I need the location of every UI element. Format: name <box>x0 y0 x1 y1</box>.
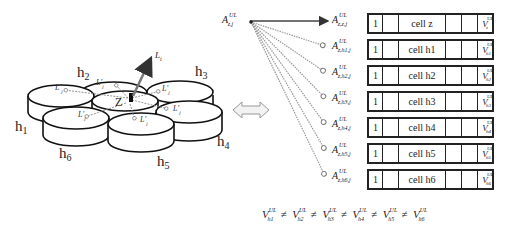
label-link-h4: L'j <box>173 104 181 115</box>
empty-cell <box>446 41 462 58</box>
table-row-cell-h6: 1 cell h6 VULh6 <box>367 169 494 190</box>
table-row-cell-h3: 1 cell h3 VULh3 <box>367 91 494 112</box>
empty-cell <box>462 145 478 162</box>
flag-cell: 1 <box>369 93 383 110</box>
empty-cell <box>383 41 399 58</box>
v-value-cell: VULh3 <box>478 93 492 110</box>
empty-cell <box>446 171 462 188</box>
v-value-cell: VULh2 <box>478 67 492 84</box>
empty-cell <box>462 67 478 84</box>
source-access-label: AULz,j <box>222 14 241 25</box>
empty-cell <box>462 41 478 58</box>
cell-name: cell h1 <box>399 41 446 58</box>
flag-cell: 1 <box>369 145 383 162</box>
mapping-lines <box>249 20 328 176</box>
cell-name: cell h2 <box>399 67 446 84</box>
cell-name: cell h3 <box>399 93 446 110</box>
v-value-cell: VULh6 <box>478 171 492 188</box>
formula-term: VULh2 <box>292 208 312 220</box>
empty-cell <box>446 93 462 110</box>
table-row-cell-h1: 1 cell h1 VULh1 <box>367 39 494 60</box>
empty-cell <box>383 145 399 162</box>
label-link-h1: L'j <box>55 83 63 94</box>
inequality-formula: VULh1≠ VULh2≠ VULh3≠ VULh4≠ VULh5≠ VULh6 <box>262 208 435 220</box>
cell-name: cell h4 <box>399 119 446 136</box>
flag-cell: 1 <box>369 119 383 136</box>
target-label-h1: AULz,h1,j <box>332 40 359 51</box>
empty-cell <box>446 119 462 136</box>
formula-term: VULh6 <box>413 208 433 220</box>
flag-cell: 1 <box>369 15 383 32</box>
label-h2: h2 <box>77 64 90 82</box>
formula-term: VULh4 <box>353 208 373 220</box>
empty-cell <box>383 67 399 84</box>
label-h5: h5 <box>157 153 170 171</box>
target-label-h3: AULz,h3,j <box>332 92 359 103</box>
table-row-cell-h4: 1 cell h4 VULh4 <box>367 117 494 138</box>
flag-cell: 1 <box>369 171 383 188</box>
empty-cell <box>462 93 478 110</box>
empty-cell <box>383 171 399 188</box>
v-value-cell: VULh4 <box>478 119 492 136</box>
empty-cell <box>462 119 478 136</box>
label-link-h3: L'j <box>162 84 170 95</box>
label-h6: h6 <box>59 145 72 163</box>
empty-cell <box>462 171 478 188</box>
label-link-h6: L'j <box>78 110 86 121</box>
label-link-h2: L'j <box>96 78 104 89</box>
label-beam: Li <box>155 50 162 62</box>
double-arrow-icon <box>233 102 269 118</box>
label-h4: h4 <box>217 133 230 151</box>
formula-term: VULh1 <box>262 208 282 220</box>
cylinder-h6 <box>43 107 109 146</box>
target-label-h2: AULz,h2,j <box>332 66 359 77</box>
label-link-h5: L'j <box>140 115 148 126</box>
formula-term: VULh5 <box>383 208 403 220</box>
empty-cell <box>383 119 399 136</box>
cell-name: cell z <box>399 15 446 32</box>
v-value-cell: VULz <box>478 15 492 32</box>
target-label-z: AULz,z,j <box>332 14 355 25</box>
target-label-h6: AULz,h6,j <box>332 170 359 181</box>
cell-name: cell h5 <box>399 145 446 162</box>
v-value-cell: VULh5 <box>478 145 492 162</box>
formula-term: VULh3 <box>322 208 342 220</box>
label-z: Z <box>115 95 122 110</box>
flag-cell: 1 <box>369 67 383 84</box>
empty-cell <box>383 93 399 110</box>
table-row-cell-z: 1 cell z VULz <box>367 13 494 34</box>
empty-cell <box>462 15 478 32</box>
empty-cell <box>446 145 462 162</box>
label-h3: h3 <box>195 63 208 81</box>
empty-cell <box>446 67 462 84</box>
table-row-cell-h5: 1 cell h5 VULh5 <box>367 143 494 164</box>
empty-cell <box>446 15 462 32</box>
label-h1: h1 <box>15 118 28 136</box>
target-label-h5: AULz,h5,j <box>332 144 359 155</box>
table-row-cell-h2: 1 cell h2 VULh2 <box>367 65 494 86</box>
empty-cell <box>383 15 399 32</box>
cell-name: cell h6 <box>399 171 446 188</box>
flag-cell: 1 <box>369 41 383 58</box>
target-label-h4: AULz,h4,j <box>332 118 359 129</box>
v-value-cell: VULh1 <box>478 41 492 58</box>
